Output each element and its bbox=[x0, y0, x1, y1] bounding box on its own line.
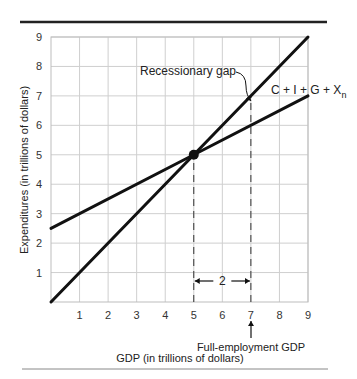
x-tick-label: 6 bbox=[219, 309, 225, 321]
y-tick-label: 1 bbox=[36, 267, 42, 279]
gap-span-arrow: 2 bbox=[195, 274, 250, 288]
y-tick-label: 2 bbox=[36, 237, 42, 249]
y-tick-label: 9 bbox=[36, 31, 42, 43]
x-tick-label: 8 bbox=[276, 309, 282, 321]
x-tick-label: 5 bbox=[191, 309, 197, 321]
aggregate-expenditure-line bbox=[51, 96, 308, 229]
y-tick-label: 7 bbox=[36, 90, 42, 102]
recessionary-gap-arrow bbox=[236, 72, 251, 101]
x-tick-label: 2 bbox=[105, 309, 111, 321]
y-tick-label: 3 bbox=[36, 208, 42, 220]
y-axis-label: Expenditures (in trillions of dollars) bbox=[18, 86, 30, 254]
y-tick-label: 4 bbox=[36, 178, 42, 190]
y-tick-label: 5 bbox=[36, 149, 42, 161]
y-tick-label: 8 bbox=[36, 60, 42, 72]
x-tick-label: 4 bbox=[162, 309, 168, 321]
x-tick-labels: 123456789 bbox=[76, 309, 311, 321]
ae-line-label: C + I + G + Xn bbox=[271, 83, 346, 100]
x-tick-label: 3 bbox=[134, 309, 140, 321]
recessionary-gap-label: Recessionary gap bbox=[140, 64, 236, 78]
y-tick-label: 6 bbox=[36, 119, 42, 131]
y-tick-labels: 123456789 bbox=[36, 31, 42, 279]
chart-canvas: 123456789 123456789 2 Recessionary gap C… bbox=[0, 0, 357, 379]
x-tick-label: 7 bbox=[248, 309, 254, 321]
equilibrium-point bbox=[189, 150, 199, 160]
x-axis-label: GDP (in trillions of dollars) bbox=[116, 352, 244, 364]
gap-width-label: 2 bbox=[219, 274, 226, 288]
x-tick-label: 1 bbox=[76, 309, 82, 321]
x-tick-label: 9 bbox=[305, 309, 311, 321]
